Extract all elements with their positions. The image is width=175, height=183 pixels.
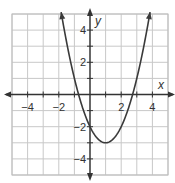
x-axis-right-arrow-icon (168, 92, 175, 98)
y-tick-label: −2 (73, 121, 86, 133)
x-tick-label: −2 (53, 101, 66, 113)
x-tick-label: 4 (149, 101, 155, 113)
curve-arrow-icon (146, 12, 152, 19)
curve-arrow-icon (59, 12, 65, 19)
axes (4, 8, 175, 181)
y-axis-top-arrow-icon (87, 8, 93, 16)
x-tick-label: −4 (21, 101, 34, 113)
y-tick-label: 2 (80, 56, 86, 68)
x-axis-left-arrow-icon (4, 92, 11, 98)
y-axis-bottom-arrow-icon (87, 173, 93, 181)
y-tick-label: 4 (80, 24, 86, 36)
y-axis-label: y (94, 14, 102, 28)
x-axis-label: x (157, 78, 165, 92)
x-tick-label: 2 (118, 101, 124, 113)
y-tick-label: −4 (73, 153, 86, 165)
parabola-graph: −4−22442−2−4 x y (0, 0, 175, 183)
